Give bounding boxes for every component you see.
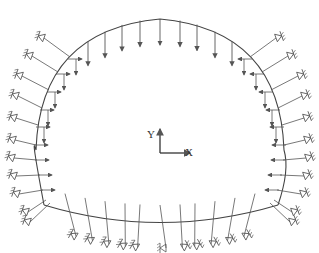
x-axis-label: X (185, 146, 193, 158)
spring-support-icon (22, 48, 34, 60)
vertical-load-arrows (34, 19, 286, 190)
spring-support-icon (5, 132, 17, 144)
spring-support-icon (18, 204, 30, 216)
spring-support-icon (115, 238, 128, 251)
spring-support-icon (290, 204, 302, 216)
spring-support-icon (9, 186, 21, 198)
spring-support-icon (225, 232, 238, 245)
tunnel-load-diagram: Y X (0, 0, 319, 253)
diagram-canvas (0, 0, 319, 253)
spring-support-icon (66, 228, 79, 241)
spring-support-icon (192, 238, 205, 251)
spring-support-icon (286, 48, 298, 60)
spring-support-icon (6, 168, 18, 180)
spring-support-icon (296, 68, 308, 80)
spring-support-icon (300, 88, 312, 100)
spring-support-icon (304, 150, 316, 162)
spring-support-icon (302, 110, 314, 122)
spring-support-icon (82, 232, 95, 245)
lining-arch (34, 19, 286, 205)
spring-support-icon (241, 228, 254, 241)
spring-support-icon (12, 68, 24, 80)
spring-support-icon (288, 214, 300, 226)
spring-support-icon (4, 150, 16, 162)
spring-support-icon (157, 243, 166, 253)
spring-support-icon (6, 110, 18, 122)
spring-support-icon (299, 186, 311, 198)
spring-support-icon (274, 30, 286, 42)
tunnel-lining (34, 19, 286, 223)
spring-support-icon (8, 88, 20, 100)
spring-support-icon (303, 132, 315, 144)
spring-support-icon (99, 235, 112, 248)
y-axis-label: Y (147, 128, 155, 140)
spring-support-icon (302, 168, 314, 180)
spring-support-icon (34, 30, 46, 42)
spring-support-icon (209, 235, 222, 248)
spring-support-icon (20, 214, 32, 226)
